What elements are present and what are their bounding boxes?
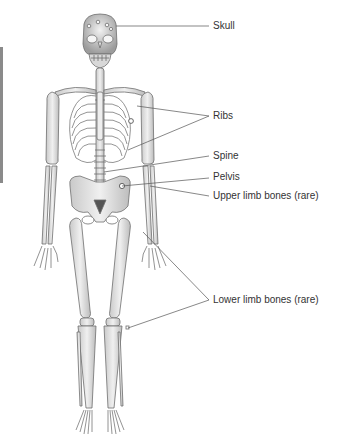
skeleton-diagram: Skull Ribs Spine Pelvis Upper limb bones… — [0, 0, 337, 442]
label-lower-limb-bones: Lower limb bones (rare) — [213, 294, 319, 306]
left-edge-bar — [0, 47, 3, 183]
label-pelvis: Pelvis — [213, 171, 240, 183]
label-upper-limb-bones: Upper limb bones (rare) — [213, 190, 319, 202]
label-skull: Skull — [213, 20, 235, 32]
label-spine: Spine — [213, 150, 239, 162]
skeleton-illustration — [0, 0, 337, 442]
label-ribs: Ribs — [213, 110, 233, 122]
pelvis — [70, 176, 131, 224]
skull — [83, 14, 117, 68]
